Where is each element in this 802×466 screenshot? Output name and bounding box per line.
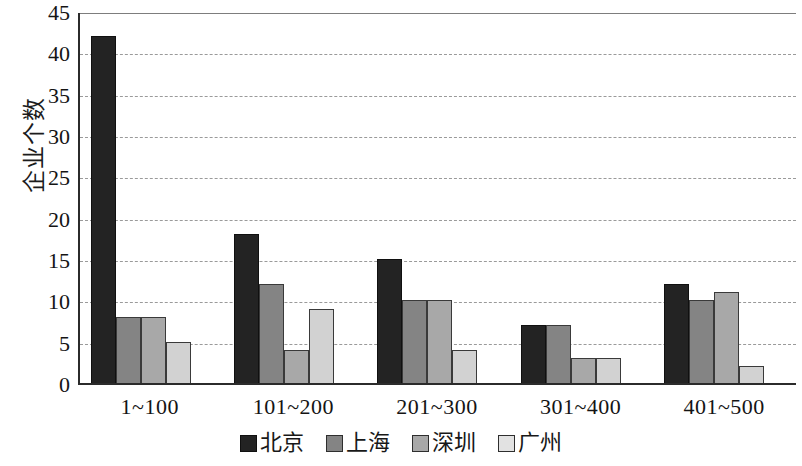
bar[interactable] bbox=[714, 292, 739, 383]
bar[interactable] bbox=[284, 350, 309, 383]
y-tick-label: 0 bbox=[26, 374, 70, 396]
bar[interactable] bbox=[571, 358, 596, 383]
bar[interactable] bbox=[259, 284, 284, 383]
bar[interactable] bbox=[664, 284, 689, 383]
bar-chart: 企业个数 051015202530354045 1~100101~200201~… bbox=[0, 0, 802, 466]
bar[interactable] bbox=[402, 300, 427, 383]
plot-area bbox=[78, 13, 796, 385]
bar[interactable] bbox=[166, 342, 191, 383]
bar-group bbox=[223, 13, 366, 383]
legend-swatch-icon bbox=[326, 435, 343, 452]
y-tick-label: 35 bbox=[26, 85, 70, 107]
legend-item[interactable]: 北京 bbox=[240, 432, 304, 454]
bar[interactable] bbox=[141, 317, 166, 383]
legend-label: 上海 bbox=[346, 432, 390, 454]
x-tick-label: 1~100 bbox=[78, 392, 222, 426]
x-tick-label: 301~400 bbox=[509, 392, 653, 426]
y-tick-label: 15 bbox=[26, 250, 70, 272]
x-tick-label: 101~200 bbox=[222, 392, 366, 426]
legend-item[interactable]: 深圳 bbox=[412, 432, 476, 454]
bar-group bbox=[366, 13, 509, 383]
bar[interactable] bbox=[116, 317, 141, 383]
bar[interactable] bbox=[739, 366, 764, 383]
y-tick-label: 20 bbox=[26, 209, 70, 231]
legend-label: 深圳 bbox=[432, 432, 476, 454]
y-tick-label: 25 bbox=[26, 167, 70, 189]
bar[interactable] bbox=[521, 325, 546, 383]
bar-group bbox=[510, 13, 653, 383]
y-tick-label: 30 bbox=[26, 126, 70, 148]
bar[interactable] bbox=[427, 300, 452, 383]
legend-swatch-icon bbox=[240, 435, 257, 452]
legend-label: 北京 bbox=[260, 432, 304, 454]
chart-legend: 北京上海深圳广州 bbox=[0, 432, 802, 454]
bar[interactable] bbox=[452, 350, 477, 383]
x-tick-label: 201~300 bbox=[365, 392, 509, 426]
y-tick-label: 5 bbox=[26, 333, 70, 355]
bar-group bbox=[80, 13, 223, 383]
legend-item[interactable]: 上海 bbox=[326, 432, 390, 454]
bar[interactable] bbox=[546, 325, 571, 383]
x-tick-label: 401~500 bbox=[652, 392, 796, 426]
y-tick-label: 40 bbox=[26, 43, 70, 65]
bar[interactable] bbox=[596, 358, 621, 383]
y-axis-tick-labels: 051015202530354045 bbox=[26, 13, 70, 385]
legend-swatch-icon bbox=[498, 435, 515, 452]
x-axis-tick-labels: 1~100101~200201~300301~400401~500 bbox=[78, 392, 796, 426]
legend-swatch-icon bbox=[412, 435, 429, 452]
bar[interactable] bbox=[309, 309, 334, 383]
y-tick-label: 45 bbox=[26, 2, 70, 24]
bar[interactable] bbox=[234, 234, 259, 383]
bar[interactable] bbox=[91, 36, 116, 383]
y-tick-label: 10 bbox=[26, 291, 70, 313]
legend-item[interactable]: 广州 bbox=[498, 432, 562, 454]
legend-label: 广州 bbox=[518, 432, 562, 454]
bar-groups bbox=[80, 13, 796, 383]
bar[interactable] bbox=[377, 259, 402, 383]
bar[interactable] bbox=[689, 300, 714, 383]
bar-group bbox=[653, 13, 796, 383]
